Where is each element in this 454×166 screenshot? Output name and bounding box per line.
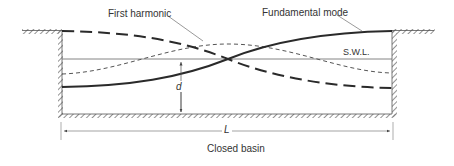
first-harmonic-label: First harmonic — [108, 8, 171, 19]
basin-floor-hatch — [58, 114, 397, 118]
closed-basin-diagram — [0, 0, 454, 166]
depth-label: d — [175, 81, 183, 92]
swl-label: S.W.L. — [343, 47, 370, 57]
right-ground-hatch — [393, 29, 435, 34]
left-ground-hatch — [22, 29, 62, 34]
right-wall-hatch — [392, 31, 397, 117]
diagram-caption: Closed basin — [207, 143, 265, 154]
fundamental-mode-label: Fundamental mode — [262, 7, 348, 18]
first-harmonic-leader — [168, 16, 203, 41]
length-label: L — [224, 124, 230, 135]
